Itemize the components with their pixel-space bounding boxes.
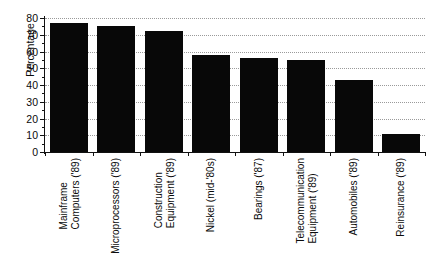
y-tick-minor	[42, 26, 45, 27]
x-tick-label: Nickel (mid-'80s)	[188, 158, 236, 270]
bar	[145, 31, 183, 152]
x-tick-label-line: Automobiles ('89)	[348, 158, 360, 236]
x-tick-label-text: TelecommunicationEquipment ('89)	[295, 158, 318, 244]
x-tick-label: Reinsurance ('89)	[378, 158, 426, 270]
x-tick-label-line: Construction	[152, 158, 164, 228]
bar	[335, 80, 373, 152]
y-tick	[40, 68, 45, 69]
x-tick-label: TelecommunicationEquipment ('89)	[283, 158, 331, 270]
y-tick-label: 30	[14, 97, 38, 108]
x-tick-label-text: MainframeComputers ('89)	[57, 158, 80, 229]
bar	[192, 55, 230, 152]
y-tick	[40, 135, 45, 136]
x-tick-label-line: Reinsurance ('89)	[396, 158, 408, 237]
y-tick	[40, 102, 45, 103]
x-tick-label-line: Bearings ('87)	[253, 158, 265, 220]
bar-chart: Percentage 01020304050607080 MainframeCo…	[0, 0, 440, 275]
bar	[50, 23, 88, 152]
x-tick-label-line: Equipment ('89)	[164, 158, 176, 228]
x-tick-label-line: Computers ('89)	[69, 158, 81, 229]
bar	[97, 26, 135, 152]
x-tick-label-text: Automobiles ('89)	[348, 158, 360, 236]
x-tick-label: Automobiles ('89)	[330, 158, 378, 270]
plot-area	[45, 18, 425, 152]
x-tick-label-line: Nickel (mid-'80s)	[206, 158, 218, 232]
x-tick-label: Bearings ('87)	[235, 158, 283, 270]
x-tick-label-line: Microprocessors ('89)	[111, 158, 123, 254]
x-tick-label: ConstructionEquipment ('89)	[140, 158, 188, 270]
x-tick-label-text: ConstructionEquipment ('89)	[152, 158, 175, 228]
y-tick-label: 50	[14, 63, 38, 74]
x-tick-label: MainframeComputers ('89)	[45, 158, 93, 270]
x-tick-label-line: Telecommunication	[295, 158, 307, 244]
y-tick-minor	[42, 93, 45, 94]
y-tick	[40, 85, 45, 86]
y-tick-label: 0	[14, 147, 38, 158]
x-tick-label-line: Mainframe	[57, 158, 69, 229]
y-tick-label: 40	[14, 80, 38, 91]
y-tick	[40, 18, 45, 19]
y-tick-minor	[42, 60, 45, 61]
x-tick	[330, 152, 331, 156]
bar	[240, 58, 278, 152]
x-tick-label-line: Equipment ('89)	[306, 158, 318, 244]
bar	[382, 134, 420, 152]
x-tick	[425, 152, 426, 156]
x-tick-label-text: Reinsurance ('89)	[396, 158, 408, 237]
x-tick-label-text: Bearings ('87)	[253, 158, 265, 220]
y-tick-label: 10	[14, 130, 38, 141]
bar	[287, 60, 325, 152]
x-tick	[378, 152, 379, 156]
x-tick	[45, 152, 46, 156]
y-tick-minor	[42, 144, 45, 145]
gridline	[45, 18, 425, 19]
y-tick-label: 20	[14, 114, 38, 125]
x-tick	[235, 152, 236, 156]
x-tick	[140, 152, 141, 156]
x-tick	[93, 152, 94, 156]
y-tick	[40, 35, 45, 36]
x-tick-label-text: Nickel (mid-'80s)	[206, 158, 218, 232]
y-tick-minor	[42, 127, 45, 128]
y-tick	[40, 52, 45, 53]
y-tick-minor	[42, 77, 45, 78]
y-tick-label: 70	[14, 30, 38, 41]
y-tick	[40, 119, 45, 120]
y-tick-label: 60	[14, 47, 38, 58]
x-tick-label-text: Microprocessors ('89)	[111, 158, 123, 254]
y-tick-label: 80	[14, 13, 38, 24]
y-tick-minor	[42, 43, 45, 44]
x-tick	[188, 152, 189, 156]
x-tick	[283, 152, 284, 156]
y-tick-minor	[42, 110, 45, 111]
x-tick-label: Microprocessors ('89)	[93, 158, 141, 270]
